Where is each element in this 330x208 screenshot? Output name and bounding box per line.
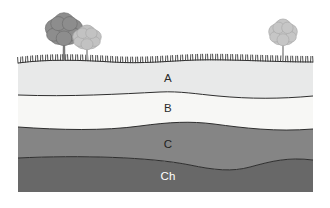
horizon-label-c: C: [164, 138, 173, 150]
canopy-lobe: [282, 22, 293, 33]
horizon-label-b: B: [164, 102, 172, 114]
trees-group: [45, 13, 297, 60]
soil-profile-diagram: ABCCh: [0, 0, 330, 208]
horizon-label-a: A: [164, 72, 172, 84]
canopy-lobe: [86, 28, 97, 39]
horizon-label-ch: Ch: [160, 170, 175, 182]
canopy-lobe: [277, 34, 289, 46]
soil-profile-canvas: ABCCh: [0, 0, 330, 208]
tree-right: [269, 19, 298, 60]
tree-left-back: [73, 25, 102, 60]
canopy-lobe: [81, 39, 93, 50]
canopy-lobe: [62, 17, 77, 31]
tree-canopy: [269, 19, 298, 46]
canopy-lobe: [56, 31, 72, 46]
